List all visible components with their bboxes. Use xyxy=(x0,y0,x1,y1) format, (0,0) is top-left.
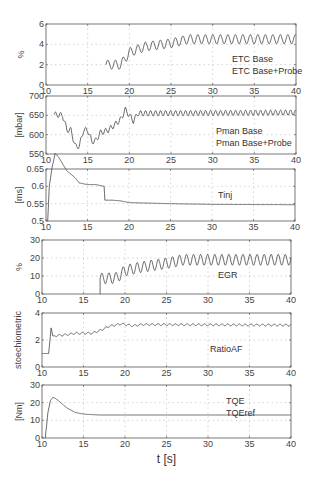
subplot-5: 10152025303540024stoechiometricRatioAF xyxy=(13,308,296,378)
legend-entry: TQEref xyxy=(226,408,256,418)
x-tick-label: 30 xyxy=(208,86,218,96)
y-tick-label: 2 xyxy=(35,335,40,345)
y-tick-label: 30 xyxy=(30,380,40,390)
y-axis-label: [Nm] xyxy=(14,402,24,421)
y-tick-label: 0.5 xyxy=(31,216,44,226)
subplot-4: 101520253035400102030%EGR xyxy=(14,235,296,305)
x-axis-label: t [s] xyxy=(157,452,176,466)
y-axis-label: % xyxy=(16,50,26,58)
y-tick-label: 10 xyxy=(30,415,40,425)
x-tick-label: 15 xyxy=(78,368,88,378)
y-tick-label: 20 xyxy=(30,253,40,263)
x-tick-label: 25 xyxy=(161,368,171,378)
y-tick-label: 700 xyxy=(29,91,44,101)
y-tick-label: 4 xyxy=(35,308,40,318)
subplot-2: 10152025303540550600650700[mbar]Pman Bas… xyxy=(14,91,301,165)
x-tick-label: 35 xyxy=(244,368,254,378)
x-tick-label: 30 xyxy=(207,222,217,232)
figure: 101520253035400246%ETC BaseETC Base+Prob… xyxy=(0,0,315,479)
y-tick-label: 20 xyxy=(30,398,40,408)
axes-box xyxy=(46,169,295,221)
x-tick-label: 30 xyxy=(208,155,218,165)
x-tick-label: 30 xyxy=(203,439,213,449)
x-tick-label: 35 xyxy=(249,155,259,165)
y-tick-label: 0.55 xyxy=(26,199,44,209)
legend-entry: Pman Base xyxy=(216,126,263,136)
y-tick-label: 0.65 xyxy=(26,164,44,174)
x-tick-label: 15 xyxy=(83,86,93,96)
x-tick-label: 25 xyxy=(166,155,176,165)
y-tick-label: 0.6 xyxy=(31,181,44,191)
x-tick-label: 15 xyxy=(83,155,93,165)
subplot-6: 101520253035400102030[Nm]TQETQEreft [s] xyxy=(14,380,296,466)
x-tick-label: 20 xyxy=(124,86,134,96)
x-tick-label: 20 xyxy=(120,439,130,449)
y-tick-label: 650 xyxy=(29,110,44,120)
y-tick-label: 0 xyxy=(35,362,40,372)
x-tick-label: 15 xyxy=(78,295,88,305)
x-tick-label: 30 xyxy=(203,295,213,305)
x-tick-label: 30 xyxy=(203,368,213,378)
y-axis-label: stoechiometric xyxy=(13,310,23,369)
x-tick-label: 35 xyxy=(248,222,258,232)
series-line-egr xyxy=(100,254,291,294)
y-tick-label: 2 xyxy=(39,60,44,70)
y-tick-label: 10 xyxy=(30,271,40,281)
y-tick-label: 6 xyxy=(39,19,44,29)
x-tick-label: 40 xyxy=(291,86,301,96)
x-tick-label: 40 xyxy=(290,222,300,232)
y-tick-label: 4 xyxy=(39,39,44,49)
y-tick-label: 0 xyxy=(35,289,40,299)
y-axis-label: [ms] xyxy=(14,187,24,204)
x-tick-label: 35 xyxy=(244,295,254,305)
x-tick-label: 35 xyxy=(244,439,254,449)
x-tick-label: 25 xyxy=(166,86,176,96)
x-tick-label: 15 xyxy=(82,222,92,232)
legend-entry: Tinj xyxy=(218,190,232,200)
subplot-3: 101520253035400.50.550.60.65[ms]Tinj xyxy=(14,153,300,232)
x-tick-label: 20 xyxy=(120,295,130,305)
x-tick-label: 40 xyxy=(286,368,296,378)
legend-entry: ETC Base+Probe xyxy=(232,66,302,76)
x-tick-label: 25 xyxy=(161,439,171,449)
x-tick-label: 35 xyxy=(249,86,259,96)
y-tick-label: 600 xyxy=(29,130,44,140)
x-tick-label: 20 xyxy=(120,368,130,378)
y-axis-label: [mbar] xyxy=(14,112,24,138)
y-tick-label: 0 xyxy=(39,80,44,90)
x-tick-label: 40 xyxy=(291,155,301,165)
x-tick-label: 20 xyxy=(124,155,134,165)
legend-entry: TQE xyxy=(226,396,245,406)
legend-entry: EGR xyxy=(218,270,238,280)
subplot-1: 101520253035400246%ETC BaseETC Base+Prob… xyxy=(16,19,302,96)
y-tick-label: 550 xyxy=(29,149,44,159)
x-tick-label: 25 xyxy=(161,295,171,305)
x-tick-label: 15 xyxy=(78,439,88,449)
y-tick-label: 30 xyxy=(30,235,40,245)
y-tick-label: 0 xyxy=(35,433,40,443)
x-tick-label: 20 xyxy=(124,222,134,232)
legend-entry: ETC Base xyxy=(232,54,273,64)
legend-entry: Pman Base+Probe xyxy=(216,138,292,148)
x-tick-label: 25 xyxy=(165,222,175,232)
x-tick-label: 40 xyxy=(286,295,296,305)
legend-entry: RatioAF xyxy=(210,344,243,354)
y-axis-label: % xyxy=(14,263,24,271)
x-tick-label: 40 xyxy=(286,439,296,449)
series-line-etc-base xyxy=(106,35,296,69)
